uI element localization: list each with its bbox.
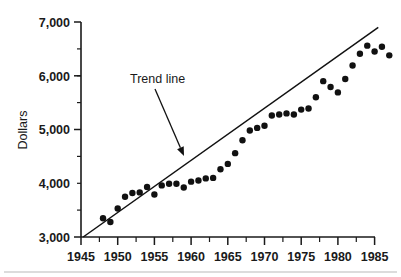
x-tick-label-1945: 1945	[67, 250, 95, 264]
y-tick-label-7000: 7,000	[39, 16, 70, 30]
data-point	[166, 181, 172, 187]
data-point	[254, 125, 260, 131]
x-tick-label-1985: 1985	[361, 250, 389, 264]
data-point	[210, 175, 216, 181]
trend-line	[83, 27, 378, 237]
y-tick-label-3000: 3,000	[39, 231, 70, 245]
data-point	[379, 44, 385, 50]
x-tick-label-1960: 1960	[177, 250, 205, 264]
trend-line-annotation-label: Trend line	[130, 72, 185, 86]
data-point	[107, 219, 113, 225]
data-point	[129, 190, 135, 196]
data-point	[137, 189, 143, 195]
data-point	[386, 52, 392, 58]
data-point	[298, 106, 304, 112]
data-point	[305, 105, 311, 111]
x-tick-label-1975: 1975	[287, 250, 315, 264]
data-point	[283, 110, 289, 116]
data-point	[349, 62, 355, 68]
data-point	[247, 127, 253, 133]
data-point	[144, 184, 150, 190]
chart-container: 7,000 6,000 5,000 4,000 3,000 1945	[0, 0, 401, 277]
data-point	[239, 137, 245, 143]
data-point	[181, 184, 187, 190]
data-point	[371, 48, 377, 54]
data-point	[327, 84, 333, 90]
data-point	[115, 205, 121, 211]
x-axis-ticks	[81, 237, 375, 245]
data-point	[357, 51, 363, 57]
data-point	[291, 111, 297, 117]
data-point	[151, 191, 157, 197]
scatter-plot-trend-line: 7,000 6,000 5,000 4,000 3,000 1945	[0, 0, 401, 277]
data-point	[313, 94, 319, 100]
x-tick-label-1980: 1980	[324, 250, 352, 264]
data-point	[122, 193, 128, 199]
trend-line-annotation-arrow	[155, 89, 184, 156]
x-tick-label-1970: 1970	[251, 250, 279, 264]
data-point	[269, 112, 275, 118]
y-tick-label-4000: 4,000	[39, 177, 70, 191]
data-point	[342, 76, 348, 82]
x-tick-label-1955: 1955	[140, 250, 168, 264]
data-point	[203, 175, 209, 181]
data-point	[261, 123, 267, 129]
data-point	[195, 177, 201, 183]
data-points-group	[100, 42, 393, 225]
data-point	[364, 42, 370, 48]
y-axis-ticks	[74, 22, 81, 237]
y-tick-label-5000: 5,000	[39, 123, 70, 137]
y-tick-label-6000: 6,000	[39, 70, 70, 84]
data-point	[335, 89, 341, 95]
data-point	[232, 150, 238, 156]
data-point	[225, 161, 231, 167]
data-point	[100, 215, 106, 221]
data-point	[173, 181, 179, 187]
data-point	[320, 78, 326, 84]
data-point	[276, 111, 282, 117]
data-point	[159, 182, 165, 188]
x-tick-label-1965: 1965	[214, 250, 242, 264]
data-point	[217, 166, 223, 172]
x-tick-label-1950: 1950	[104, 250, 132, 264]
y-axis-title: Dollars	[16, 111, 30, 150]
data-point	[188, 178, 194, 184]
